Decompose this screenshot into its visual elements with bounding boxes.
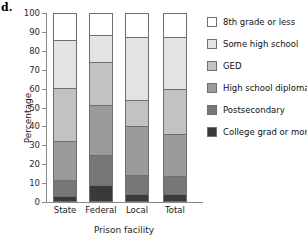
y-tick-mark: [42, 70, 46, 71]
stacked-bar[interactable]: [163, 13, 187, 202]
y-tick-mark: [42, 202, 46, 203]
bar-segment[interactable]: [54, 141, 76, 179]
legend-item[interactable]: 8th grade or less: [207, 11, 307, 33]
stacked-bar[interactable]: [53, 13, 77, 202]
bar-segment[interactable]: [164, 89, 186, 134]
y-tick-mark: [42, 145, 46, 146]
y-tick-mark: [42, 183, 46, 184]
stacked-bar[interactable]: [89, 13, 113, 202]
bar-segment[interactable]: [126, 100, 148, 126]
legend: 8th grade or lessSome high schoolGEDHigh…: [207, 11, 307, 143]
bar-segment[interactable]: [90, 35, 112, 62]
legend-label: Postsecondary: [223, 106, 285, 115]
y-tick-label: 10: [29, 179, 40, 188]
x-tick-label: State: [54, 205, 77, 215]
legend-swatch: [207, 83, 217, 93]
x-axis-line: [46, 202, 203, 203]
y-axis-title: Percentage: [23, 92, 33, 143]
panel-letter: d.: [1, 2, 13, 13]
stacked-bar[interactable]: [125, 13, 149, 202]
y-tick-label: 0: [35, 198, 40, 207]
bar-segment[interactable]: [126, 14, 148, 37]
bar-segment[interactable]: [164, 14, 186, 37]
x-tick-label: Total: [165, 205, 185, 215]
bar-segment[interactable]: [54, 14, 76, 40]
legend-item[interactable]: Some high school: [207, 33, 307, 55]
legend-swatch: [207, 127, 217, 137]
y-tick-label: 70: [29, 65, 40, 74]
bar-segment[interactable]: [54, 40, 76, 88]
x-tick-label: Local: [126, 205, 148, 215]
y-tick-mark: [42, 32, 46, 33]
legend-swatch: [207, 17, 217, 27]
y-tick-mark: [42, 164, 46, 165]
bar-segment[interactable]: [164, 134, 186, 176]
legend-label: Some high school: [223, 40, 298, 49]
legend-swatch: [207, 61, 217, 71]
bar-segment[interactable]: [126, 126, 148, 175]
bar-segment[interactable]: [164, 176, 186, 195]
y-tick-label: 90: [29, 28, 40, 37]
legend-item[interactable]: GED: [207, 55, 307, 77]
legend-item[interactable]: Postsecondary: [207, 99, 307, 121]
plot-area: 0102030405060708090100 StateFederalLocal…: [46, 13, 201, 202]
y-tick-label: 100: [24, 9, 40, 18]
legend-label: 8th grade or less: [223, 18, 295, 27]
x-axis-title: Prison facility: [94, 225, 154, 235]
legend-item[interactable]: High school diploma: [207, 77, 307, 99]
legend-item[interactable]: College grad or more: [207, 121, 307, 143]
y-tick-mark: [42, 108, 46, 109]
legend-label: High school diploma: [223, 84, 307, 93]
y-tick-label: 20: [29, 160, 40, 169]
bar-segment[interactable]: [126, 194, 148, 201]
chart-figure: d. 0102030405060708090100 StateFederalLo…: [0, 0, 307, 235]
legend-label: GED: [223, 62, 242, 71]
bars-group: [47, 13, 201, 202]
bar-segment[interactable]: [90, 185, 112, 201]
bar-segment[interactable]: [54, 88, 76, 141]
bar-segment[interactable]: [164, 37, 186, 88]
y-tick-mark: [42, 51, 46, 52]
bar-segment[interactable]: [164, 194, 186, 201]
legend-swatch: [207, 39, 217, 49]
legend-label: College grad or more: [223, 128, 307, 137]
y-tick-label: 80: [29, 47, 40, 56]
bar-segment[interactable]: [54, 180, 76, 197]
bar-segment[interactable]: [90, 105, 112, 155]
bar-segment[interactable]: [54, 196, 76, 201]
bar-segment[interactable]: [90, 62, 112, 105]
x-tick-label: Federal: [85, 205, 116, 215]
bar-segment[interactable]: [90, 155, 112, 185]
y-tick-mark: [42, 89, 46, 90]
legend-swatch: [207, 105, 217, 115]
bar-segment[interactable]: [90, 14, 112, 35]
bar-segment[interactable]: [126, 37, 148, 100]
y-tick-mark: [42, 13, 46, 14]
bar-segment[interactable]: [126, 175, 148, 195]
y-tick-mark: [42, 126, 46, 127]
